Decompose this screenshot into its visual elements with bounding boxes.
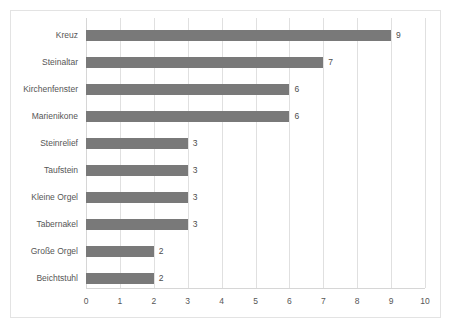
gridline-9 — [391, 18, 392, 288]
x-tick-label-4: 4 — [210, 296, 234, 307]
gridline-8 — [357, 18, 358, 288]
bar — [86, 30, 391, 41]
x-tick-label-1: 1 — [108, 296, 132, 307]
bar — [86, 219, 188, 230]
category-label: Beichtstuhl — [36, 273, 78, 284]
bar — [86, 57, 323, 68]
gridline-10 — [425, 18, 426, 288]
bar — [86, 165, 188, 176]
x-tick-label-9: 9 — [379, 296, 403, 307]
category-label: Große Orgel — [31, 246, 78, 257]
category-label: Kirchenfenster — [23, 84, 78, 95]
category-label: Steinaltar — [42, 57, 78, 68]
category-label: Kreuz — [56, 30, 78, 41]
bar — [86, 273, 154, 284]
x-tick-label-6: 6 — [277, 296, 301, 307]
bar-value-label: 2 — [159, 273, 164, 284]
category-label: Tabernakel — [36, 219, 78, 230]
bar-value-label: 3 — [193, 219, 198, 230]
category-label: Steinrelief — [40, 138, 78, 149]
x-tick-label-2: 2 — [142, 296, 166, 307]
bar-value-label: 6 — [294, 84, 299, 95]
category-label: Marienikone — [32, 111, 78, 122]
bar — [86, 84, 289, 95]
bar — [86, 192, 188, 203]
bar-value-label: 3 — [193, 165, 198, 176]
x-axis-line — [86, 288, 425, 289]
category-label: Kleine Orgel — [31, 192, 78, 203]
x-tick-label-0: 0 — [74, 296, 98, 307]
category-label: Taufstein — [44, 165, 78, 176]
x-tick-label-3: 3 — [176, 296, 200, 307]
x-tick-label-5: 5 — [244, 296, 268, 307]
x-tick-label-7: 7 — [311, 296, 335, 307]
bar-chart-figure: Kreuz9Steinaltar7Kirchenfenster6Marienik… — [0, 0, 451, 328]
bar-value-label: 2 — [159, 246, 164, 257]
bar-value-label: 6 — [294, 111, 299, 122]
bar-value-label: 7 — [328, 57, 333, 68]
x-tick-label-8: 8 — [345, 296, 369, 307]
x-tick-label-10: 10 — [413, 296, 437, 307]
gridline-7 — [323, 18, 324, 288]
bar-value-label: 9 — [396, 30, 401, 41]
bar-value-label: 3 — [193, 138, 198, 149]
bar — [86, 246, 154, 257]
bar — [86, 138, 188, 149]
plot-area: Kreuz9Steinaltar7Kirchenfenster6Marienik… — [86, 18, 425, 288]
bar-value-label: 3 — [193, 192, 198, 203]
bar — [86, 111, 289, 122]
